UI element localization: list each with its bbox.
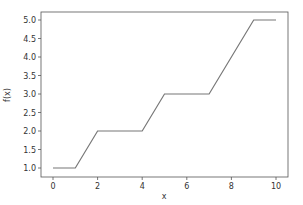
x-tick-label: 2: [95, 182, 100, 191]
y-axis-ticks: 1.01.52.02.53.03.54.04.55.0: [23, 16, 41, 173]
y-axis-label: f(x): [3, 88, 12, 102]
y-tick-label: 4.5: [23, 35, 36, 44]
x-tick-label: 0: [50, 182, 55, 191]
y-tick-label: 1.5: [23, 146, 36, 155]
y-tick-label: 2.5: [23, 109, 36, 118]
x-tick-label: 10: [271, 182, 281, 191]
x-axis-label: x: [162, 192, 167, 201]
y-tick-label: 2.0: [23, 127, 36, 136]
x-tick-label: 4: [140, 182, 145, 191]
y-tick-label: 4.0: [23, 53, 36, 62]
x-axis-ticks: 0246810: [50, 177, 281, 191]
line-chart: 0246810 1.01.52.02.53.03.54.04.55.0 x f(…: [0, 0, 303, 205]
y-tick-label: 1.0: [23, 164, 36, 173]
y-tick-label: 3.5: [23, 72, 36, 81]
x-tick-label: 8: [229, 182, 234, 191]
x-tick-label: 6: [184, 182, 189, 191]
y-tick-label: 3.0: [23, 90, 36, 99]
y-tick-label: 5.0: [23, 16, 36, 25]
